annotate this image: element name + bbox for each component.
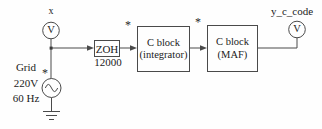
asterisk-marker-integrator: * [125,18,131,33]
integrator-block: C block (integrator) [137,26,190,72]
junction-node [50,47,53,50]
grid-source-line-1: Grid [5,60,47,76]
output-voltmeter-letter: V [289,23,305,34]
integrator-block-line-1: C block [147,37,180,50]
zoh-block: ZOH [94,40,120,57]
maf-block-line-2: (MAF) [218,49,248,62]
zoh-sample-rate: 12000 [88,56,128,68]
arrowhead-into-maf [200,45,207,50]
input-voltmeter-letter: V [43,24,59,35]
wire-maf-to-probe [258,38,297,49]
block-diagram-canvas: x V Grid 220V 60 Hz * * * ZOH 12000 C bl… [0,0,322,129]
zoh-block-label: ZOH [96,43,119,55]
input-probe-label: x [44,5,58,16]
grid-source-line-2: 220V [5,76,47,92]
integrator-block-line-2: (integrator) [140,49,188,62]
grid-source-label: Grid 220V 60 Hz [5,60,47,107]
maf-block-line-1: C block [216,36,249,49]
maf-block: C block (MAF) [207,25,258,72]
output-probe-label: y_c_code [268,5,316,17]
asterisk-marker-source: * [42,66,48,81]
asterisk-marker-maf: * [195,15,201,30]
grid-source-line-3: 60 Hz [5,91,47,107]
arrowhead-into-zoh [87,45,94,50]
arrowhead-into-integrator [130,45,137,50]
